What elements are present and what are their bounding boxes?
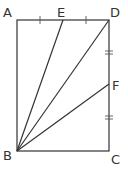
segment-bf	[17, 84, 109, 151]
label-b: B	[3, 148, 12, 163]
label-f: F	[112, 78, 119, 93]
segment-be	[17, 20, 63, 151]
label-e: E	[57, 5, 65, 20]
geometry-diagram: A E D F B C	[0, 0, 128, 170]
label-c: C	[111, 152, 120, 167]
label-a: A	[3, 5, 12, 20]
label-d: D	[110, 5, 120, 20]
segment-bd	[17, 20, 109, 151]
